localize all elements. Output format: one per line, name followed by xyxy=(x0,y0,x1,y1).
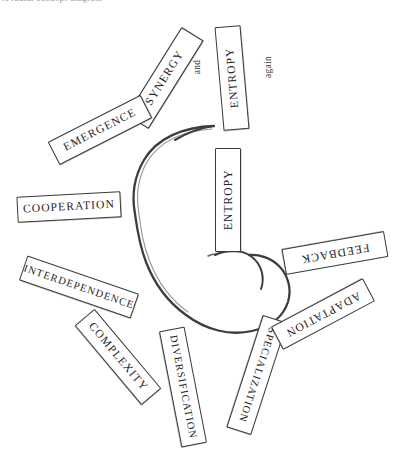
concept-label-cooperation: COOPERATION xyxy=(23,199,115,215)
annotation-and: and xyxy=(192,60,202,75)
diagram-canvas: A radial concept diagram ENTROPY SYNERGY xyxy=(0,0,395,466)
concept-box-entropy-inner[interactable]: ENTROPY xyxy=(215,148,241,252)
spiral-inner-arc xyxy=(215,251,263,289)
concept-label-feedback: FEEDBACK xyxy=(300,241,370,264)
spiral-sketch-echo xyxy=(137,129,212,312)
annotation-again: again xyxy=(263,56,273,78)
concept-box-cooperation[interactable]: COOPERATION xyxy=(16,191,121,222)
concept-label-entropy-inner: ENTROPY xyxy=(222,170,234,231)
concept-label-entropy-outer: ENTROPY xyxy=(224,47,241,109)
spiral-outer-arc xyxy=(134,126,290,333)
